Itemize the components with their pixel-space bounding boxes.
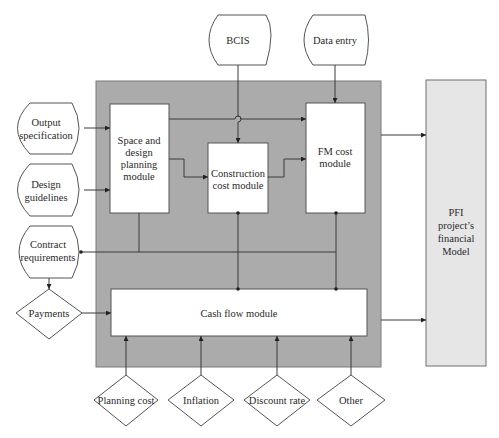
payments-label: Payments xyxy=(29,308,70,319)
other-label: Other xyxy=(339,395,363,406)
data-entry-label: Data entry xyxy=(313,35,358,46)
output-spec-label-line-1: Output xyxy=(31,117,60,128)
inflation-input[interactable]: Inflation xyxy=(168,375,234,426)
cash-flow-module[interactable]: Cash flow module xyxy=(111,289,367,336)
planning-cost-input[interactable]: Planning cost xyxy=(94,375,158,426)
inflation-label: Inflation xyxy=(183,395,220,406)
contract-requirements-input[interactable]: Contract requirements xyxy=(19,226,79,278)
design-guidelines-label-line-2: guidelines xyxy=(24,192,67,203)
space-design-label-line-3: planning xyxy=(121,159,158,170)
planning-cost-label: Planning cost xyxy=(98,395,155,406)
contract-requirements-label-line-1: Contract xyxy=(30,239,66,250)
discount-rate-input[interactable]: Discount rate xyxy=(244,375,310,426)
other-input[interactable]: Other xyxy=(317,375,385,426)
cash-flow-label: Cash flow module xyxy=(201,308,278,319)
pfi-financial-model-box[interactable]: PFI project’s financial Model xyxy=(426,80,486,366)
fm-cost-module[interactable]: FM cost module xyxy=(306,103,365,213)
bcis-label: BCIS xyxy=(226,35,250,46)
bcis-input[interactable]: BCIS xyxy=(209,15,271,65)
space-design-label-line-4: module xyxy=(123,171,155,182)
pfi-label-line-4: Model xyxy=(442,246,469,257)
discount-rate-label: Discount rate xyxy=(249,395,306,406)
construction-cost-label-line-2: cost module xyxy=(212,180,263,191)
space-design-planning-module[interactable]: Space and design planning module xyxy=(110,104,169,213)
output-specification-input[interactable]: Output specification xyxy=(18,103,80,154)
data-entry-input[interactable]: Data entry xyxy=(304,15,369,65)
output-spec-label-line-2: specification xyxy=(19,130,73,141)
construction-cost-label-line-1: Construction xyxy=(211,168,266,179)
payments-input[interactable]: Payments xyxy=(16,289,82,339)
pfi-label-line-2: project’s xyxy=(438,220,474,231)
construction-cost-module[interactable]: Construction cost module xyxy=(208,143,268,213)
pfi-label-line-1: PFI xyxy=(448,207,464,218)
contract-requirements-label-line-2: requirements xyxy=(21,252,76,263)
pfi-label-line-3: financial xyxy=(438,233,475,244)
space-design-label-line-2: design xyxy=(125,147,153,158)
space-design-label-line-1: Space and xyxy=(118,135,162,146)
design-guidelines-input[interactable]: Design guidelines xyxy=(18,164,80,216)
cost-model-diagram: PFI project’s financial Model BCIS Data … xyxy=(0,0,499,438)
fm-cost-label-line-1: FM cost xyxy=(318,146,353,157)
design-guidelines-label-line-1: Design xyxy=(31,179,61,190)
fm-cost-label-line-2: module xyxy=(319,158,351,169)
